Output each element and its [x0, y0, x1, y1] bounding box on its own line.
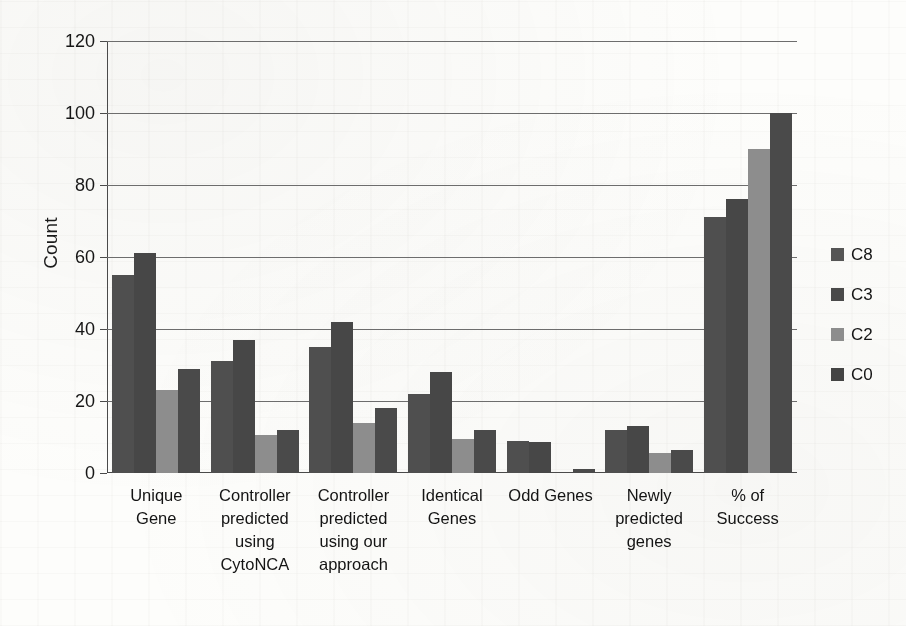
- bar: [233, 340, 255, 473]
- x-tick-label-line: using: [206, 530, 305, 553]
- x-tick-label-line: using our: [304, 530, 403, 553]
- x-tick-label-line: predicted: [304, 507, 403, 530]
- bar: [770, 113, 792, 473]
- x-tick-label: IdenticalGenes: [403, 484, 502, 530]
- y-tick-mark: [100, 113, 107, 114]
- y-tick-mark: [100, 257, 107, 258]
- bar: [726, 199, 748, 473]
- bar: [331, 322, 353, 473]
- bar-group: [304, 41, 403, 473]
- y-tick-label: 40: [43, 319, 95, 340]
- legend-item-label: C3: [851, 286, 873, 303]
- x-tick-label-line: Identical: [403, 484, 502, 507]
- bar-chart: Count 020406080100120 UniqueGeneControll…: [0, 0, 906, 626]
- y-tick-label: 20: [43, 391, 95, 412]
- legend-item-label: C8: [851, 246, 873, 263]
- legend-swatch-icon: [831, 368, 844, 381]
- legend-swatch-icon: [831, 248, 844, 261]
- bar-group: [501, 41, 600, 473]
- y-tick-label: 80: [43, 175, 95, 196]
- x-tick-label-line: genes: [600, 530, 699, 553]
- bar: [375, 408, 397, 473]
- bar: [649, 453, 671, 473]
- bar-group: [403, 41, 502, 473]
- x-tick-label-line: Success: [698, 507, 797, 530]
- x-tick-label-line: Unique: [107, 484, 206, 507]
- x-tick-label: ControllerpredictedusingCytoNCA: [206, 484, 305, 576]
- y-tick-mark: [100, 473, 107, 474]
- bar-group: [600, 41, 699, 473]
- bar: [430, 372, 452, 473]
- y-tick-label: 0: [43, 463, 95, 484]
- bar: [748, 149, 770, 473]
- bar: [156, 390, 178, 473]
- x-tick-label-line: approach: [304, 553, 403, 576]
- x-tick-label-line: predicted: [600, 507, 699, 530]
- bar: [671, 450, 693, 473]
- bar: [627, 426, 649, 473]
- bar-group: [206, 41, 305, 473]
- legend: C8C3C2C0: [831, 241, 901, 401]
- y-axis-title: Count: [40, 198, 62, 288]
- bar: [408, 394, 430, 473]
- legend-item[interactable]: C8: [831, 241, 901, 268]
- x-tick-label-line: Gene: [107, 507, 206, 530]
- y-tick-mark: [100, 401, 107, 402]
- bar: [452, 439, 474, 473]
- y-tick-mark: [100, 185, 107, 186]
- y-tick-label: 60: [43, 247, 95, 268]
- bar-group: [107, 41, 206, 473]
- y-tick-mark: [100, 41, 107, 42]
- y-tick-label: 100: [43, 103, 95, 124]
- x-tick-label-line: predicted: [206, 507, 305, 530]
- y-tick-label: 120: [43, 31, 95, 52]
- bar: [474, 430, 496, 473]
- bar: [255, 435, 277, 473]
- bar: [529, 442, 551, 473]
- bar: [211, 361, 233, 473]
- bar: [605, 430, 627, 473]
- x-tick-label-line: Controller: [206, 484, 305, 507]
- bar: [353, 423, 375, 473]
- x-tick-label-line: % of: [698, 484, 797, 507]
- legend-swatch-icon: [831, 288, 844, 301]
- x-tick-label-line: Odd Genes: [501, 484, 600, 507]
- bar: [573, 469, 595, 473]
- x-tick-label-line: Genes: [403, 507, 502, 530]
- bar: [134, 253, 156, 473]
- legend-item-label: C0: [851, 366, 873, 383]
- x-tick-label-line: Newly: [600, 484, 699, 507]
- x-tick-label: Newlypredictedgenes: [600, 484, 699, 553]
- legend-item[interactable]: C3: [831, 281, 901, 308]
- x-tick-label: Controllerpredictedusing ourapproach: [304, 484, 403, 576]
- bar: [277, 430, 299, 473]
- legend-item[interactable]: C2: [831, 321, 901, 348]
- bar: [309, 347, 331, 473]
- bar-group: [698, 41, 797, 473]
- x-tick-label-line: CytoNCA: [206, 553, 305, 576]
- bar: [507, 441, 529, 473]
- legend-swatch-icon: [831, 328, 844, 341]
- legend-item[interactable]: C0: [831, 361, 901, 388]
- legend-item-label: C2: [851, 326, 873, 343]
- x-tick-label: % ofSuccess: [698, 484, 797, 530]
- x-tick-label: Odd Genes: [501, 484, 600, 507]
- x-tick-label: UniqueGene: [107, 484, 206, 530]
- y-tick-mark: [100, 329, 107, 330]
- bar: [704, 217, 726, 473]
- bar: [112, 275, 134, 473]
- bar: [178, 369, 200, 473]
- plot-area: [107, 41, 797, 473]
- x-tick-label-line: Controller: [304, 484, 403, 507]
